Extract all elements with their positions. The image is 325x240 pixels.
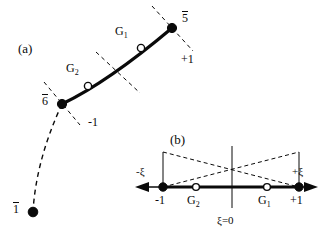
panel-a-label-node-G2-sub: 2 (75, 68, 79, 77)
panel-b-point-G1 (264, 184, 271, 191)
panel-a-label-node-G1: G1 (115, 25, 128, 40)
panel-b-tag: (b) (170, 133, 185, 146)
panel-a-tag: (a) (18, 42, 32, 55)
panel-b-axis-label-positive: +ξ (292, 166, 303, 177)
panel-a-node-G2 (84, 82, 91, 89)
panel-a-node-G1 (137, 44, 144, 51)
panel-b-label-point-G1-text: G (258, 193, 267, 207)
panel-b-axis-arrow-left (135, 182, 149, 192)
panel-b-point-G2 (193, 184, 200, 191)
panel-b-label-point-G2-text: G (187, 193, 196, 207)
panel-a-label-node-1bar: 1 (13, 202, 19, 215)
panel-a-label-node-G1-sub: 1 (124, 31, 128, 40)
panel-a-dashed-tail (33, 104, 62, 212)
panel-b-axis-arrow-right (304, 182, 318, 192)
panel-a-node-1bar (28, 207, 38, 217)
panel-a-node-6bar (57, 99, 66, 108)
panel-a-label-node-G2-text: G (66, 61, 75, 75)
panel-b-label-point-plus-1: +1 (290, 194, 303, 206)
panel-a-label-node-G2: G2 (66, 62, 79, 77)
panel-a-tick-label-minus-1: -1 (88, 116, 98, 128)
panel-b-label-point-minus-1: -1 (155, 194, 165, 206)
panel-b-point-plus-1 (295, 183, 303, 191)
panel-a-label-node-6bar-text: 6 (42, 94, 48, 107)
panel-b-label-point-G1-sub: 1 (267, 200, 271, 209)
panel-b-axis-label-negative: -ξ (136, 166, 145, 177)
panel-b-label-point-G2: G2 (187, 194, 200, 209)
panel-a-label-node-5bar-text: 5 (182, 11, 188, 24)
panel-b-label-point-G2-sub: 2 (196, 200, 200, 209)
panel-a-label-node-1bar-text: 1 (13, 202, 19, 215)
panel-b-label-point-G1: G1 (258, 194, 271, 209)
panel-a-tick-label-plus-1: +1 (181, 53, 194, 65)
panel-b-point-minus-1 (159, 183, 167, 191)
panel-b-origin-label: ξ=0 (217, 215, 234, 226)
panel-a-label-node-6bar: 6 (42, 94, 48, 107)
panel-a-label-node-G1-text: G (115, 24, 124, 38)
panel-a-label-node-5bar: 5 (182, 11, 188, 24)
panel-a-node-5bar (167, 23, 176, 32)
panel-a-group (28, 6, 193, 217)
